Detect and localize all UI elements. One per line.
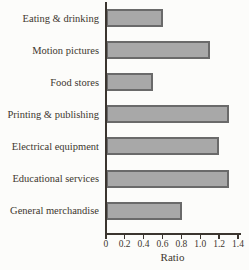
bar-chart: Eating & drinkingMotion picturesFood sto… [0, 0, 249, 270]
plot-area: Eating & drinkingMotion picturesFood sto… [0, 0, 249, 270]
bar [106, 105, 229, 123]
category-label: Electrical equipment [12, 140, 99, 153]
category-label: Motion pictures [32, 44, 99, 57]
category-label: Food stores [50, 76, 99, 89]
x-axis-tick-label: 1.4 [223, 239, 249, 250]
bar [106, 9, 163, 27]
x-axis-line [105, 233, 241, 235]
bar [106, 41, 210, 59]
x-axis-title: Ratio [106, 251, 239, 264]
category-label: General merchandise [10, 204, 99, 217]
category-label: Printing & publishing [7, 108, 99, 121]
category-label: Educational services [12, 172, 99, 185]
bar [106, 170, 229, 188]
category-label: Eating & drinking [23, 12, 99, 25]
bar [106, 73, 153, 91]
bar [106, 137, 219, 155]
y-axis-line [105, 2, 107, 238]
bar [106, 202, 182, 220]
